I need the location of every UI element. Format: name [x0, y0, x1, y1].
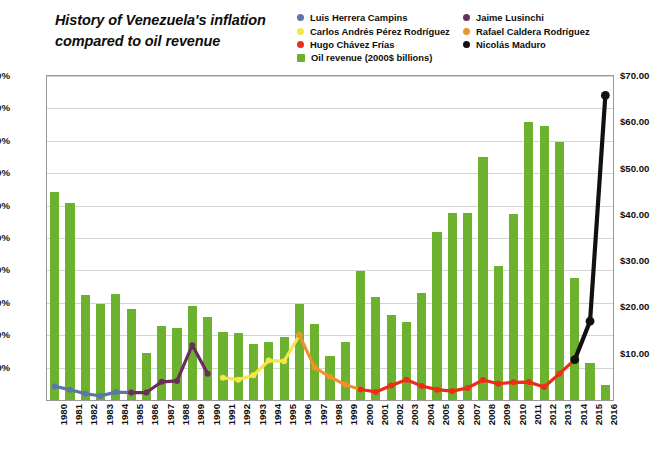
y-axis-left-tick: 450% — [0, 102, 10, 113]
x-axis-tick: 1983 — [105, 404, 115, 425]
y-axis-left-tick: 250% — [0, 232, 10, 243]
legend-swatch-dot-icon — [463, 14, 470, 21]
y-axis-right-tick: $60.00 — [620, 116, 649, 127]
legend-label: Jaime Lusinchi — [476, 12, 544, 23]
legend-label: Hugo Chávez Frías — [310, 39, 394, 50]
chart-title-line-2: compared to oil revenue — [55, 31, 325, 52]
y-axis-left-tick: 400% — [0, 135, 10, 146]
x-axis-tick: 2000 — [365, 404, 375, 425]
y-axis-right-tick: $70.00 — [620, 70, 649, 81]
legend-item[interactable]: Hugo Chávez Frías — [297, 38, 463, 51]
bar — [234, 333, 243, 400]
chart-title: History of Venezuela's inflation compare… — [55, 10, 325, 51]
x-axis-tick: 1991 — [227, 404, 237, 425]
bar — [387, 315, 396, 400]
y-axis-right-tick: $30.00 — [620, 255, 649, 266]
legend-item[interactable]: Luis Herrera Campins — [297, 11, 463, 24]
bar — [203, 317, 212, 400]
bar — [157, 326, 166, 400]
bar — [280, 337, 289, 400]
y-axis-left-tick: 150% — [0, 297, 10, 308]
legend-item[interactable]: Oil revenue (2000$ billions) — [297, 51, 463, 64]
bar — [371, 297, 380, 400]
y-axis-left-tick: 300% — [0, 200, 10, 211]
chart-page: History of Venezuela's inflation compare… — [0, 0, 672, 453]
bar — [172, 328, 181, 400]
legend-label: Carlos Andrés Pérez Rodríguez — [310, 26, 450, 37]
bar — [127, 309, 136, 400]
bar — [402, 322, 411, 400]
bar — [524, 122, 533, 400]
x-axis-tick: 1994 — [273, 404, 283, 425]
x-axis-tick: 2003 — [410, 404, 420, 425]
bar — [218, 332, 227, 400]
x-axis-tick: 2008 — [487, 404, 497, 425]
x-axis-tick: 1998 — [334, 404, 344, 425]
y-axis-left-tick: 500% — [0, 70, 10, 81]
x-axis-tick: 2015 — [594, 404, 604, 425]
bar — [478, 157, 487, 400]
y-axis-left-tick: 50% — [0, 362, 10, 373]
line-path — [575, 95, 606, 359]
bar — [188, 306, 197, 400]
x-axis-tick: 1981 — [74, 404, 84, 425]
x-axis-tick: 1982 — [89, 404, 99, 425]
x-axis-tick: 1989 — [196, 404, 206, 425]
x-axis-tick: 1985 — [135, 404, 145, 425]
bar — [111, 294, 120, 400]
chart-title-line-1: History of Venezuela's inflation — [55, 10, 325, 31]
line-series — [52, 383, 134, 399]
x-axis-tick: 1984 — [120, 404, 130, 425]
legend-swatch-square-icon — [297, 54, 305, 62]
bar — [50, 192, 59, 400]
bar — [432, 232, 441, 400]
x-axis-tick: 1988 — [181, 404, 191, 425]
legend-item[interactable]: Jaime Lusinchi — [463, 11, 669, 24]
legend-item[interactable]: Rafael Caldera Rodríguez — [463, 24, 669, 37]
y-axis-left-tick: 100% — [0, 329, 10, 340]
legend-swatch-dot-icon — [297, 14, 304, 21]
bar — [570, 278, 579, 400]
y-axis-left-tick: 350% — [0, 167, 10, 178]
bar — [463, 213, 472, 400]
x-axis-tick: 2016 — [609, 404, 619, 425]
bar — [448, 213, 457, 400]
x-axis-tick: 2007 — [472, 404, 482, 425]
plot-area — [46, 75, 614, 401]
legend-item[interactable]: Carlos Andrés Pérez Rodríguez — [297, 24, 463, 37]
x-axis-tick: 2013 — [563, 404, 573, 425]
data-point — [586, 317, 595, 326]
legend-label: Luis Herrera Campins — [310, 12, 407, 23]
x-axis-tick: 1990 — [212, 404, 222, 425]
bar — [341, 342, 350, 400]
data-point — [601, 91, 610, 100]
legend-swatch-dot-icon — [297, 41, 304, 48]
x-axis-tick: 1980 — [59, 404, 69, 425]
bar — [295, 304, 304, 400]
legend-label: Nicolás Maduro — [476, 39, 546, 50]
chart-legend: Luis Herrera CampinsJaime LusinchiCarlos… — [297, 11, 669, 65]
bar — [96, 304, 105, 400]
line-series — [220, 332, 302, 382]
bar — [555, 142, 564, 400]
bar — [65, 203, 74, 400]
legend-item[interactable]: Nicolás Maduro — [463, 38, 669, 51]
legend-label: Oil revenue (2000$ billions) — [311, 52, 432, 63]
x-axis-tick: 2010 — [518, 404, 528, 425]
y-axis-left-tick: 200% — [0, 264, 10, 275]
bar — [325, 356, 334, 400]
x-axis-tick: 1996 — [303, 404, 313, 425]
x-axis-tick: 1999 — [349, 404, 359, 425]
x-axis-tick: 2006 — [456, 404, 466, 425]
y-axis-right-tick: $50.00 — [620, 163, 649, 174]
legend-swatch-dot-icon — [463, 41, 470, 48]
x-axis-tick: 1997 — [319, 404, 329, 425]
bar — [585, 363, 594, 400]
x-axis-tick: 2004 — [426, 404, 436, 425]
gridline — [47, 108, 613, 109]
x-axis-tick: 2011 — [533, 404, 543, 425]
y-axis-right-tick: $10.00 — [620, 348, 649, 359]
x-axis-tick: 2014 — [579, 404, 589, 425]
y-axis-right-tick: $40.00 — [620, 209, 649, 220]
x-axis-tick: 2009 — [502, 404, 512, 425]
